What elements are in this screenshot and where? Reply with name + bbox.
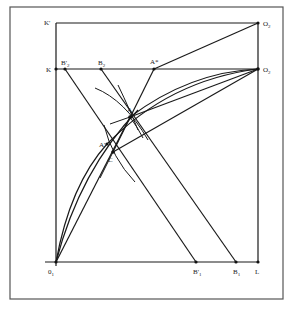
point-a [128,115,132,119]
point-b1 [234,260,237,263]
label-astar: A* [150,58,159,66]
outer-frame [10,7,283,299]
line-o2-a [130,69,258,117]
point-l [256,260,259,263]
point-o2-mid [256,67,260,71]
label-kprime: K' [44,19,50,27]
construction-diagram: K' K O2 O2 B'2 B2 A* A A' C 01 B'1 B1 L [0,0,290,309]
label-o2-top: O2 [263,20,271,29]
label-b2: B2 [98,59,106,68]
point-astar [152,67,155,70]
line-b2prime-b1prime [65,69,196,262]
point-k [54,67,57,70]
label-a: A [127,106,132,114]
label-o1: 01 [48,268,55,277]
line-o1-a [56,117,130,262]
label-b1: B1 [233,268,241,277]
point-b2prime [63,67,66,70]
label-b2prime: B'2 [61,59,70,68]
label-c: C [108,156,113,164]
line-o2top-astar [154,23,258,69]
point-b2 [99,67,102,70]
label-k: K [46,66,51,74]
label-aprime: A' [99,141,105,149]
point-c [111,150,115,154]
arc-o1-aprime [56,144,107,262]
point-b1prime [194,260,197,263]
label-l: L [255,268,259,276]
point-aprime [105,142,108,145]
line-o2-c [113,69,258,152]
label-o2-mid: O2 [263,66,271,75]
point-o1 [54,260,57,263]
point-o2-top [256,21,259,24]
label-b1prime: B'1 [193,268,202,277]
